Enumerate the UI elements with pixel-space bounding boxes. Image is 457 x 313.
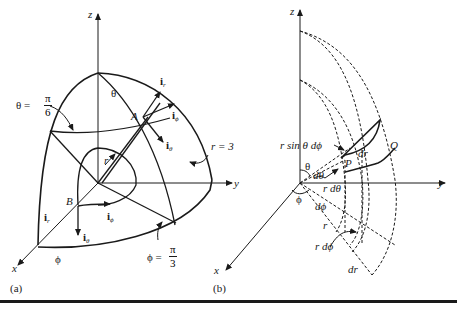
i-theta-label-B: iθ xyxy=(83,232,90,245)
i-r-label-B: ir xyxy=(44,212,50,225)
r-eq-label: r = 3 xyxy=(211,141,234,152)
phi-eq-prefix: ϕ = xyxy=(147,252,162,263)
bottom-rule xyxy=(0,300,457,303)
phi-label-a: ϕ xyxy=(55,254,61,265)
panel-b-caption: (b) xyxy=(213,283,226,294)
theta-label-a: θ xyxy=(111,88,116,99)
z-axis-label-b: z xyxy=(290,6,294,17)
phi-eq-fraction: π 3 xyxy=(169,244,177,269)
y-axis-label-a: y xyxy=(234,178,239,189)
phi-label-b: ϕ xyxy=(296,194,302,205)
radial-phi-1 xyxy=(300,183,372,275)
x-axis-label-b: x xyxy=(214,265,219,276)
cone-line-x xyxy=(50,131,98,183)
phi-eq-leader xyxy=(158,222,162,240)
theta-eq-prefix: θ = xyxy=(16,100,30,111)
panel-a-caption: (a) xyxy=(10,283,22,294)
y-axis-label-b: y xyxy=(438,178,443,189)
i-r-label-A: ir xyxy=(160,76,166,89)
volume-element-base xyxy=(345,148,395,172)
x-axis-b xyxy=(226,183,300,270)
theta-eq-leader xyxy=(50,106,73,130)
r-d-phi-label: r dϕ xyxy=(315,241,333,252)
i-phi-label-B: iϕ xyxy=(107,211,114,224)
radius-to-A xyxy=(98,117,148,183)
theta-eq-fraction: π 6 xyxy=(44,93,52,118)
figure-canvas xyxy=(0,0,457,313)
i-phi-label-A: iϕ xyxy=(172,110,179,123)
phi-eq-numerator: π xyxy=(169,244,177,257)
r-dtheta-leader xyxy=(325,169,338,178)
r-sin-theta-dphi-leader xyxy=(334,145,344,150)
r-label-b: r xyxy=(323,220,327,231)
d-phi-label: dϕ xyxy=(315,201,326,212)
point-A-label: A xyxy=(131,111,138,122)
dr-label-bottom: dr xyxy=(348,264,358,275)
i-theta-label-A: iθ xyxy=(166,140,173,153)
point-P-label: P xyxy=(345,158,352,169)
r-label-a: r xyxy=(104,155,108,166)
theta-label-b: θ xyxy=(305,161,310,172)
panel-b-diagram xyxy=(226,10,445,275)
theta-eq-numerator: π xyxy=(44,93,52,106)
point-B-label: B xyxy=(66,196,73,207)
arc-outer-1 xyxy=(300,31,396,275)
dr-label-top: dr xyxy=(358,148,368,159)
radial-phi-2 xyxy=(300,183,395,245)
r-sin-theta-dphi-label: r sin θ dϕ xyxy=(280,140,322,151)
z-axis-label-a: z xyxy=(88,9,92,20)
x-axis-label-a: x xyxy=(12,263,17,274)
outer-arc-xy xyxy=(38,180,212,247)
d-theta-label: dθ xyxy=(313,170,324,181)
point-Q-label: Q xyxy=(390,140,398,151)
panel-a-diagram xyxy=(18,14,232,265)
theta-eq-denominator: 6 xyxy=(44,106,52,118)
phi-eq-denominator: 3 xyxy=(169,257,177,269)
r-dphi-leader xyxy=(330,231,356,247)
r-d-theta-label: r dθ xyxy=(323,183,341,194)
